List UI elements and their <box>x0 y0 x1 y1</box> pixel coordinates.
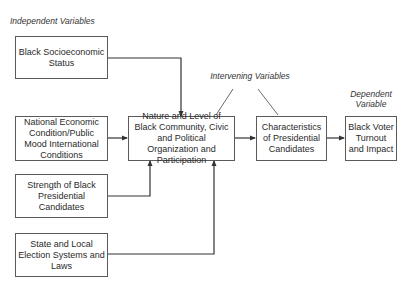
box-community-organization: Nature and Level of Black Community, Civ… <box>128 116 235 161</box>
box-state-local-election: State and Local Election Systems and Law… <box>15 233 108 277</box>
box-candidate-strength: Strength of Black Presidential Candidate… <box>15 174 108 218</box>
independent-variables-label: Independent Variables <box>10 16 120 26</box>
intervening-variables-label: Intervening Variables <box>195 71 305 81</box>
box-national-conditions: National Economic Condition/Public Mood … <box>15 116 108 161</box>
dependent-variable-label: Dependent Variable <box>345 89 397 109</box>
dependent-label-line2: Variable <box>345 99 397 109</box>
box-voter-turnout: Black Voter Turnout and Impact <box>345 116 397 161</box>
box-candidate-characteristics: Characteristics of Presidential Candidat… <box>256 116 327 161</box>
dependent-label-line1: Dependent <box>345 89 397 99</box>
box-socioeconomic: Black Socioeconomic Status <box>15 36 108 79</box>
